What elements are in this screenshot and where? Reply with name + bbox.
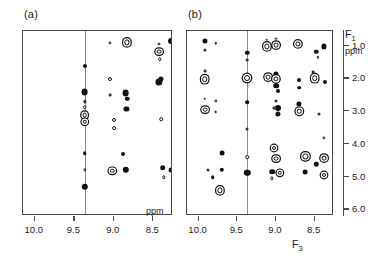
panel-b-plot-area[interactable]	[186, 30, 333, 215]
panel-b-xaxis-title: F3	[292, 238, 303, 253]
panel-b-label: (b)	[188, 8, 202, 20]
x-tick	[73, 216, 74, 221]
spectrum-peak	[122, 89, 129, 96]
spectrum-peak	[312, 71, 315, 74]
spectrum-peak	[265, 39, 268, 42]
x-tick	[113, 216, 114, 221]
spectrum-peak	[202, 76, 208, 82]
x-tick	[198, 216, 199, 221]
spectrum-peak	[214, 99, 217, 102]
spectrum-peak	[264, 44, 269, 49]
spectrum-peak	[124, 106, 129, 111]
spectrum-peak	[246, 100, 250, 104]
x-tick-label: 10.0	[25, 224, 44, 235]
spectrum-peak	[219, 151, 224, 156]
spectrum-peak	[110, 169, 114, 173]
y-tick-label: 5.0	[352, 170, 365, 181]
spectrum-peak	[323, 80, 327, 84]
spectrum-peak	[295, 42, 300, 47]
spectrum-peak	[278, 171, 282, 175]
y-tick-label: 4.0	[352, 137, 365, 148]
spectrum-peak	[203, 97, 206, 100]
y-axis-line	[343, 30, 344, 216]
spectrum-peak	[206, 168, 209, 171]
x-tick-label: 9.5	[230, 224, 243, 235]
panel-b-yaxis-unit: ppm	[345, 46, 363, 56]
spectrum-peak	[121, 152, 125, 156]
spectrum-peak	[81, 183, 87, 189]
spectrum-peak	[244, 170, 250, 176]
spectrum-peak	[81, 89, 88, 96]
spectrum-peak	[82, 119, 86, 123]
y-tick	[344, 176, 349, 177]
spectrum-peak	[274, 156, 279, 161]
spectrum-peak	[322, 155, 327, 160]
spectrum-peak	[244, 75, 250, 81]
spectrum-peak	[202, 38, 207, 43]
spectrum-peak	[159, 118, 163, 122]
spectrum-peak	[157, 43, 160, 46]
y-tick	[344, 143, 349, 144]
y-tick-label: 6.0	[352, 203, 365, 214]
spectrum-peak	[274, 99, 277, 102]
spectrum-peak	[297, 78, 301, 82]
panel-a-unit-label: ppm	[146, 206, 164, 216]
spectrum-peak	[322, 173, 326, 177]
spectrum-peak	[203, 48, 206, 51]
spectrum-peak	[83, 64, 87, 68]
x-tick	[314, 216, 315, 221]
spectrum-peak	[303, 154, 308, 159]
spectrum-peak	[297, 86, 301, 90]
spectrum-peak	[276, 89, 280, 93]
spectrum-peak	[246, 59, 249, 62]
spectrum-peak	[246, 155, 250, 159]
x-tick	[236, 216, 237, 221]
spectrum-peak	[269, 169, 275, 175]
spectrum-peak	[214, 110, 217, 113]
spectrum-peak	[168, 38, 172, 44]
spectrum-peak	[214, 42, 216, 44]
spectrum-peak	[112, 118, 116, 122]
spectrum-peak	[82, 113, 87, 118]
spectrum-peak	[297, 101, 302, 106]
spectrum-peak	[202, 107, 207, 112]
y-tick	[344, 208, 349, 209]
spectrum-peak	[108, 93, 111, 96]
spectrum-peak	[273, 77, 278, 82]
spectrum-peak	[162, 176, 165, 179]
spectrum-peak	[125, 40, 130, 45]
y-tick-label: 3.0	[352, 105, 365, 116]
spectrum-peak	[321, 44, 326, 49]
spectrum-peak	[303, 169, 308, 174]
spectrum-peak	[275, 111, 280, 116]
spectrum-peak	[83, 168, 86, 171]
x-tick-label: 10.0	[188, 224, 207, 235]
spectrum-peak	[158, 58, 162, 62]
spectrum-peak	[108, 42, 111, 45]
spectrum-peak	[211, 176, 215, 180]
panel-b-yaxis-title: F1	[345, 28, 356, 43]
spectrum-peak	[169, 168, 172, 173]
x-tick-label: 8.5	[146, 224, 159, 235]
spectrum-peak	[272, 146, 276, 150]
spectrum-peak	[297, 109, 301, 113]
spectrum-peak	[245, 51, 249, 55]
y-tick	[344, 77, 349, 78]
spectrum-peak	[317, 56, 319, 58]
spectrum-peak	[156, 49, 161, 54]
panel-a-label: (a)	[24, 8, 38, 20]
spectrum-peak	[322, 136, 325, 139]
spectrum-peak	[275, 37, 278, 40]
spectrum-peak	[270, 177, 273, 180]
spectrum-peak	[108, 77, 112, 81]
x-tick	[34, 216, 35, 221]
xaxis-title-sub: 3	[298, 244, 302, 253]
spectrum-peak	[317, 112, 320, 115]
spectrum-peak	[83, 105, 87, 109]
x-tick	[152, 216, 153, 221]
spectrum-peak	[274, 43, 279, 48]
spectrum-peak	[273, 71, 278, 76]
y-tick-label: 2.0	[352, 72, 365, 83]
spectrum-peak	[273, 83, 279, 89]
panel-a-plot-area[interactable]	[22, 30, 172, 215]
